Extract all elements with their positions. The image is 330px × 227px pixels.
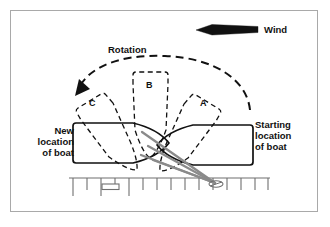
- dock: [69, 178, 270, 196]
- rotation-label: Rotation: [108, 44, 147, 55]
- position-c-label: C: [89, 98, 96, 109]
- rotation-arc: [75, 56, 250, 110]
- boat-new-position: [73, 123, 169, 163]
- position-b-label: B: [146, 80, 153, 91]
- wind-label: Wind: [264, 24, 287, 35]
- wind-arrow: [196, 25, 258, 36]
- starting-location-label: Starting location of boat: [255, 119, 323, 153]
- mooring-pivot-icon: [209, 181, 223, 187]
- figure-container: Wind Rotation New location of boat Start…: [0, 0, 330, 227]
- position-a-label: A: [200, 98, 207, 109]
- dock-cleat: [102, 184, 119, 190]
- new-location-label: New location of boat: [14, 125, 74, 159]
